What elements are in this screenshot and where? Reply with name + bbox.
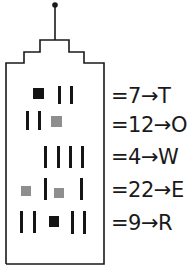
row-equation-w: =4→W [111, 145, 178, 169]
bar-symbol [80, 178, 83, 200]
black-square-symbol [49, 216, 59, 227]
black-square-symbol [33, 88, 44, 99]
bar-symbol [44, 146, 47, 168]
bar-symbol [69, 146, 72, 168]
antenna-ball-icon [52, 2, 58, 8]
tower-code-diagram: =7→T =12→O =4→W =22→E =9→R [0, 0, 195, 265]
bar-symbol [57, 146, 60, 168]
row-equation-r: =9→R [111, 211, 172, 235]
row-equation-o: =12→O [111, 113, 187, 137]
row-equation-e: =22→E [111, 178, 184, 202]
bar-symbol [33, 211, 36, 233]
bar-symbol [58, 86, 61, 104]
bar-symbol [71, 211, 74, 234]
bar-symbol [26, 111, 29, 130]
bar-symbol [81, 146, 84, 168]
gray-square-symbol [54, 188, 64, 198]
bar-symbol [44, 178, 47, 200]
bar-symbol [70, 86, 73, 104]
gray-square-symbol [51, 116, 62, 127]
row-equation-t: =7→T [111, 84, 170, 108]
bar-symbol [20, 211, 23, 233]
bar-symbol [83, 211, 86, 234]
gray-square-symbol [21, 186, 31, 196]
bar-symbol [38, 111, 41, 130]
